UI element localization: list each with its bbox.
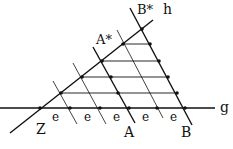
intersection-points bbox=[38, 27, 187, 110]
horizontal-lines bbox=[61, 44, 177, 93]
label-e-4: e bbox=[142, 110, 149, 124]
label-h: h bbox=[163, 1, 172, 17]
label-B: B bbox=[181, 124, 191, 140]
label-e-5: e bbox=[170, 110, 177, 124]
label-A-star: A* bbox=[95, 32, 112, 47]
label-e-1: e bbox=[52, 110, 59, 124]
label-e-3: e bbox=[113, 110, 120, 124]
label-A: A bbox=[123, 124, 135, 140]
label-Z: Z bbox=[36, 121, 46, 137]
intercept-theorem-diagram: Z A B A* B* h g e e e e e bbox=[0, 0, 233, 149]
label-e-2: e bbox=[84, 110, 91, 124]
label-g: g bbox=[220, 99, 229, 115]
label-B-star: B* bbox=[137, 2, 154, 17]
